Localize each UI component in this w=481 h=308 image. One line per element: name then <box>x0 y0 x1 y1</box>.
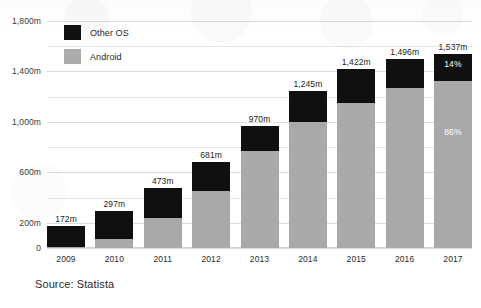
stacked-bar[interactable]: 1,496m <box>386 59 424 248</box>
stacked-bar[interactable]: 681m <box>192 162 230 248</box>
x-axis-tick-label: 2017 <box>443 254 462 264</box>
source-note: Source: Statista <box>35 278 114 290</box>
bar-value-label: 681m <box>200 150 222 160</box>
stacked-bar[interactable]: 970m <box>241 126 279 248</box>
x-axis-tick-label: 2016 <box>395 254 414 264</box>
legend-swatch-other-os <box>64 25 81 40</box>
x-axis-tick-label: 2011 <box>153 254 172 264</box>
bar-percentage-label: 14% <box>444 59 462 69</box>
bar-segment-other-os[interactable] <box>95 211 133 240</box>
bar-percentage-label: 86% <box>444 127 462 137</box>
bar-value-label: 297m <box>104 199 126 209</box>
bar-segment-other-os[interactable] <box>386 59 424 87</box>
bar-segment-other-os[interactable]: 14% <box>434 54 472 81</box>
chart-legend: Other OS Android <box>64 25 129 64</box>
bar-segment-other-os[interactable] <box>192 162 230 191</box>
legend-item-android: Android <box>64 49 129 64</box>
bar-segment-android[interactable] <box>386 88 424 248</box>
chart-figure: 0200m600m1,000m1,400m1,800m 172m2009297m… <box>0 0 481 308</box>
legend-item-other-os: Other OS <box>64 25 129 40</box>
bar-value-label: 473m <box>152 176 174 186</box>
bar-segment-other-os[interactable] <box>289 91 327 122</box>
bar-segment-android[interactable] <box>289 122 327 248</box>
bar-slot: 1,422m2015 <box>337 21 375 248</box>
x-axis-tick-label: 2013 <box>250 254 269 264</box>
bar-value-label: 172m <box>55 214 77 224</box>
bar-segment-android[interactable] <box>192 191 230 248</box>
bar-value-label: 970m <box>249 114 271 124</box>
bar-slot: 1,245m2014 <box>289 21 327 248</box>
bar-segment-other-os[interactable] <box>144 188 182 218</box>
bar-value-label: 1,245m <box>293 79 322 89</box>
x-axis-tick-label: 2012 <box>201 254 220 264</box>
bar-value-label: 1,496m <box>390 47 419 57</box>
x-axis-tick-label: 2009 <box>56 254 75 264</box>
bar-slot: 14%86%1,537m2017 <box>434 21 472 248</box>
stacked-bar[interactable]: 14%86%1,537m <box>434 54 472 248</box>
legend-swatch-android <box>64 49 81 64</box>
bar-segment-android[interactable] <box>144 218 182 248</box>
stacked-bar[interactable]: 1,245m <box>289 91 327 248</box>
stacked-bar[interactable]: 473m <box>144 188 182 248</box>
legend-label-other-os: Other OS <box>90 28 129 38</box>
y-axis-tick-label: 600m <box>19 167 41 177</box>
gridline <box>47 248 472 249</box>
bar-slot: 1,496m2016 <box>386 21 424 248</box>
bar-segment-android[interactable]: 86% <box>434 81 472 248</box>
legend-label-android: Android <box>90 52 122 62</box>
stacked-bar[interactable]: 1,422m <box>337 69 375 248</box>
bar-segment-other-os[interactable] <box>47 226 85 247</box>
stacked-bar[interactable]: 172m <box>47 226 85 248</box>
bar-value-label: 1,537m <box>439 42 468 52</box>
bar-segment-other-os[interactable] <box>337 69 375 103</box>
x-axis-tick-label: 2010 <box>105 254 124 264</box>
x-axis-tick-label: 2014 <box>298 254 317 264</box>
bar-segment-android[interactable] <box>241 151 279 248</box>
bar-segment-other-os[interactable] <box>241 126 279 152</box>
y-axis-tick-label: 0 <box>36 243 41 253</box>
y-axis-tick-label: 1,400m <box>12 66 41 76</box>
x-axis-tick-label: 2015 <box>347 254 366 264</box>
bar-value-label: 1,422m <box>342 57 371 67</box>
bar-slot: 681m2012 <box>192 21 230 248</box>
bar-segment-android[interactable] <box>337 103 375 248</box>
y-axis-tick-label: 1,800m <box>12 16 41 26</box>
bar-slot: 970m2013 <box>241 21 279 248</box>
bar-segment-android[interactable] <box>95 239 133 248</box>
stacked-bar[interactable]: 297m <box>95 211 133 248</box>
y-axis-tick-label: 1,000m <box>12 117 41 127</box>
bar-segment-android[interactable] <box>47 247 85 248</box>
y-axis-tick-label: 200m <box>19 218 41 228</box>
bar-slot: 473m2011 <box>144 21 182 248</box>
